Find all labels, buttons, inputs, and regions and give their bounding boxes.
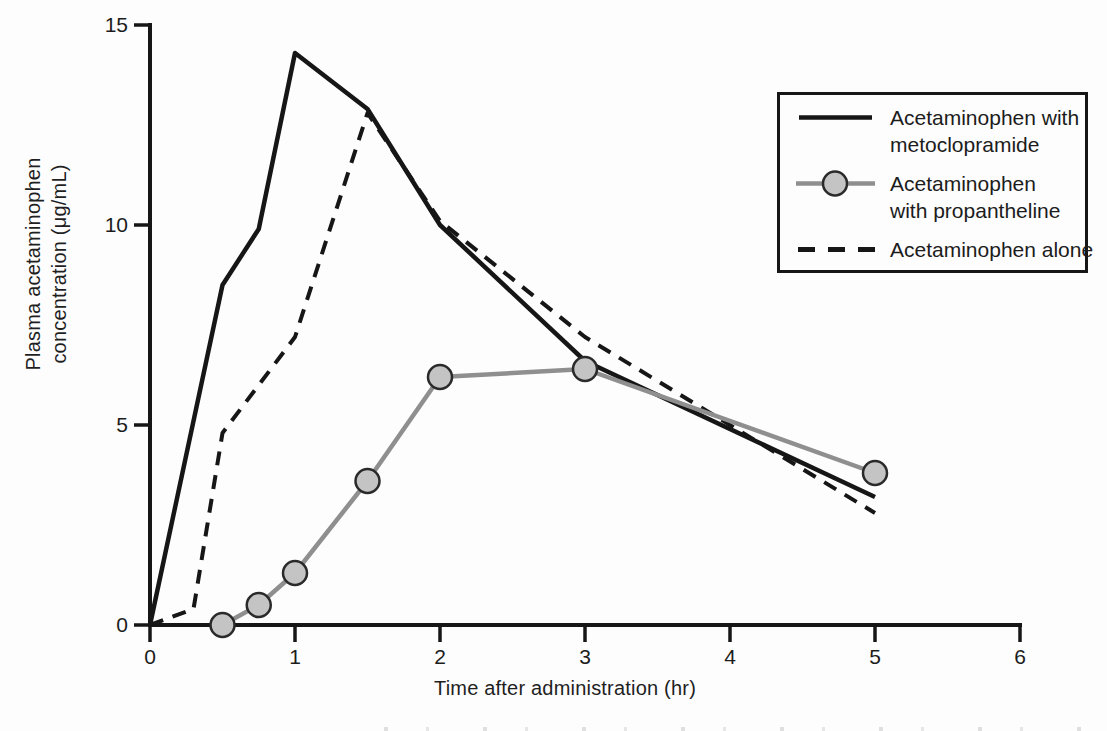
legend-label-metoclopramide: Acetaminophen with metoclopramide: [890, 104, 1079, 158]
series-line-2: [150, 113, 875, 625]
figure-canvas: 0510150123456 Time after administration …: [0, 0, 1107, 731]
legend-item-metoclopramide: Acetaminophen with metoclopramide: [796, 104, 1079, 158]
series-line-1: [223, 369, 876, 625]
series-marker-1: [356, 469, 380, 493]
series-marker-1: [573, 357, 597, 381]
y-axis-title-line2: concentration (μg/mL): [46, 122, 72, 406]
legend-label-alone: Acetaminophen alone: [890, 236, 1093, 263]
legend: Acetaminophen with metoclopramide Acetam…: [777, 92, 1088, 273]
series-marker-1: [283, 561, 307, 585]
cropped-caption-remnant: [330, 727, 1100, 731]
x-tick-label: 1: [289, 645, 301, 668]
y-tick-label: 15: [105, 13, 128, 36]
y-tick-label: 5: [116, 413, 128, 436]
series-line-0: [150, 53, 875, 625]
x-tick-label: 6: [1014, 645, 1026, 668]
series-marker-1: [863, 461, 887, 485]
x-tick-label: 0: [144, 645, 156, 668]
x-tick-label: 4: [724, 645, 736, 668]
series-marker-1: [211, 613, 235, 637]
circle-marker-line-swatch-icon: [796, 170, 878, 198]
solid-line-swatch-icon: [796, 104, 878, 132]
dashed-line-swatch-icon: [796, 236, 878, 264]
series-marker-1: [247, 593, 271, 617]
y-axis-title-line1: Plasma acetaminophen: [20, 122, 46, 406]
x-tick-label: 3: [579, 645, 591, 668]
y-axis-title: Plasma acetaminophen concentration (μg/m…: [20, 122, 76, 406]
x-axis-title: Time after administration (hr): [365, 677, 765, 700]
y-tick-label: 0: [116, 613, 128, 636]
series-marker-1: [428, 365, 452, 389]
x-tick-label: 2: [434, 645, 446, 668]
legend-item-alone: Acetaminophen alone: [796, 236, 1079, 264]
legend-label-propantheline: Acetaminophen with propantheline: [890, 170, 1060, 224]
x-tick-label: 5: [869, 645, 881, 668]
y-tick-label: 10: [105, 213, 128, 236]
legend-item-propantheline: Acetaminophen with propantheline: [796, 170, 1079, 224]
